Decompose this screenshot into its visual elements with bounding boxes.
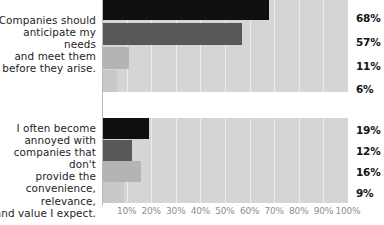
bar-group2-series3 xyxy=(102,161,141,182)
tick-label-20: 20% xyxy=(141,206,160,216)
tick-label-40: 40% xyxy=(191,206,210,216)
plot-area-group-1 xyxy=(102,0,348,92)
gridline-20 xyxy=(151,118,152,203)
value-label-group1-series3: 11% xyxy=(356,60,384,72)
tick-label-50: 50% xyxy=(215,206,234,216)
gridline-40 xyxy=(200,118,201,203)
bar-group1-series4 xyxy=(102,70,117,92)
gridline-90 xyxy=(323,0,324,92)
tick-label-10: 10% xyxy=(117,206,136,216)
gridline-70 xyxy=(274,118,275,203)
gridline-80 xyxy=(299,118,300,203)
x-axis-tick-labels: 10%20%30%40%50%60%70%80%90%100% xyxy=(102,206,348,222)
tick-label-100: 100% xyxy=(336,206,361,216)
tick-label-30: 30% xyxy=(166,206,185,216)
gridline-60 xyxy=(250,118,251,203)
tick-label-90: 90% xyxy=(314,206,333,216)
gridline-80 xyxy=(299,0,300,92)
bar-group2-series1 xyxy=(102,118,149,139)
bar-group2-series4 xyxy=(102,182,124,203)
gridline-70 xyxy=(274,0,275,92)
bar-group2-series2 xyxy=(102,140,132,161)
gridline-30 xyxy=(176,118,177,203)
group-label-1: Companies should anticipate my needs and… xyxy=(0,14,96,74)
gridline-50 xyxy=(225,118,226,203)
value-label-group2-series4: 9% xyxy=(356,187,384,199)
value-label-group1-series1: 68% xyxy=(356,12,384,24)
value-label-group2-series1: 19% xyxy=(356,124,384,136)
bar-group1-series3 xyxy=(102,47,129,69)
gridline-90 xyxy=(323,118,324,203)
plot-area-group-2 xyxy=(102,118,348,203)
value-label-group2-series2: 12% xyxy=(356,145,384,157)
gridline-100 xyxy=(348,0,349,92)
tick-label-70: 70% xyxy=(264,206,283,216)
gridline-100 xyxy=(348,118,349,203)
y-axis-line xyxy=(102,0,103,206)
value-label-group1-series4: 6% xyxy=(356,83,384,95)
value-label-group1-series2: 57% xyxy=(356,36,384,48)
bar-group1-series2 xyxy=(102,23,242,45)
group-label-2: I often become annoyed with companies th… xyxy=(0,122,96,219)
tick-label-80: 80% xyxy=(289,206,308,216)
bar-group1-series1 xyxy=(102,0,269,20)
bar-chart: Companies should anticipate my needs and… xyxy=(0,0,384,225)
tick-label-60: 60% xyxy=(240,206,259,216)
value-label-group2-series3: 16% xyxy=(356,166,384,178)
